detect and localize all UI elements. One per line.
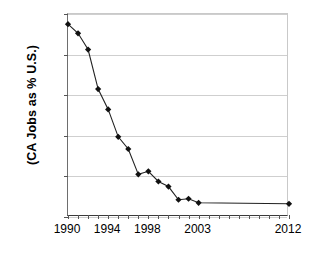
x-tick-label: 2012 bbox=[275, 222, 302, 236]
x-tick-label: 1990 bbox=[54, 222, 81, 236]
data-series-line bbox=[68, 14, 289, 217]
data-point-marker bbox=[135, 171, 141, 177]
x-tick-label: 1994 bbox=[94, 222, 121, 236]
data-point-marker bbox=[85, 46, 91, 52]
chart-container: (CA Jobs as % U.S.) 16%18%20%22%24%26% 1… bbox=[0, 0, 310, 263]
x-tick-label: 2003 bbox=[184, 222, 211, 236]
y-axis-title: (CA Jobs as % U.S.) bbox=[25, 5, 39, 205]
plot-area: 16%18%20%22%24%26% bbox=[67, 13, 288, 216]
data-point-marker bbox=[286, 201, 292, 207]
data-point-marker bbox=[195, 200, 201, 206]
data-point-marker bbox=[105, 106, 111, 112]
data-point-marker bbox=[185, 196, 191, 202]
x-tick-mark bbox=[289, 215, 290, 219]
x-tick-label: 1998 bbox=[134, 222, 161, 236]
data-point-marker bbox=[95, 86, 101, 92]
series-line bbox=[68, 24, 289, 204]
x-axis-labels: 19901994199820032012 bbox=[67, 222, 288, 242]
